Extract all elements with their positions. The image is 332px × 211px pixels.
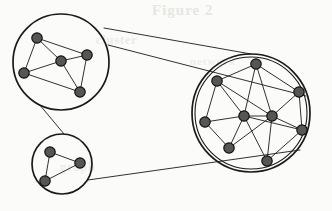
cluster-right-large-edge [244,64,256,116]
cluster-circle-layer [13,14,310,194]
cluster-top-left-edge [24,73,80,92]
graph-node [82,50,92,60]
cluster-right-large-edge [229,116,272,148]
cluster-right-large-edge [217,81,244,116]
graph-node [75,158,85,168]
cluster-top-left-edge [37,38,87,55]
graph-node [251,59,261,69]
figure-canvas: Figure 2 cluster network graph [0,0,332,211]
cluster-bottom-left-edge [45,163,80,181]
network-diagram [0,0,332,211]
cluster-right-large-edge [256,64,272,116]
graph-node [262,156,272,166]
graph-node [40,176,50,186]
graph-node [224,143,234,153]
cluster-right-large-inner-boundary [195,57,307,169]
graph-node [212,76,222,86]
graph-node [45,147,55,157]
cluster-right-large-boundary [192,54,310,172]
graph-node [56,56,66,66]
graph-node [75,87,85,97]
graph-node [32,33,42,43]
graph-node [267,111,277,121]
graph-node [297,125,307,135]
cluster-right-large-edge [205,116,244,122]
cluster-top-left-edge [24,61,61,73]
graph-node [294,87,304,97]
cluster-right-large-edge [256,64,299,92]
graph-node [239,111,249,121]
graph-node [19,68,29,78]
graph-node [200,117,210,127]
connector-topleft-to-large-lower [108,45,306,96]
cluster-right-large-edge [205,81,217,122]
